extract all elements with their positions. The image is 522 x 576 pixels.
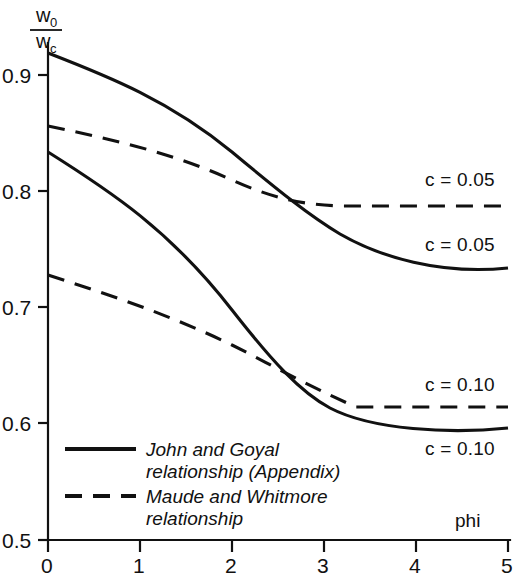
curve-maude-whitmore-c005	[48, 126, 508, 206]
legend-label-john-goyal-line2: relationship (Appendix)	[146, 461, 340, 482]
x-tick-label-3: 3	[317, 554, 329, 576]
chart-svg: w 0 w c 0.9 0.8 0.7 0.6 0.5 0 1 2 3 4 5	[0, 0, 522, 576]
annotation-lower-dashed-c010: c = 0.10	[425, 374, 495, 395]
x-tick-label-5: 5	[501, 554, 513, 576]
y-axis-numerator: w	[35, 4, 51, 26]
y-tick-label-0.5: 0.5	[2, 529, 31, 552]
y-tick-label-0.8: 0.8	[2, 180, 31, 203]
chart-legend: John and Goyal relationship (Appendix) M…	[65, 439, 340, 529]
x-axis-label: phi	[455, 510, 480, 531]
y-tick-label-0.9: 0.9	[2, 64, 31, 87]
legend-label-maude-whitmore-line2: relationship	[146, 508, 243, 529]
legend-label-maude-whitmore-line1: Maude and Whitmore	[146, 486, 328, 507]
y-tick-label-0.6: 0.6	[2, 412, 31, 435]
y-axis-tick-labels: 0.9 0.8 0.7 0.6 0.5	[2, 64, 31, 552]
x-tick-label-0: 0	[41, 554, 53, 576]
legend-label-john-goyal-line1: John and Goyal	[145, 439, 280, 460]
annotation-upper-dashed-c005: c = 0.05	[425, 169, 495, 190]
x-tick-label-2: 2	[225, 554, 237, 576]
chart-figure: w 0 w c 0.9 0.8 0.7 0.6 0.5 0 1 2 3 4 5	[0, 0, 522, 576]
x-axis-ticks	[48, 540, 508, 552]
y-tick-label-0.7: 0.7	[2, 296, 31, 319]
annotation-upper-solid-c005: c = 0.05	[425, 234, 495, 255]
x-tick-label-4: 4	[409, 554, 421, 576]
y-axis-ticks	[38, 75, 48, 540]
annotation-lower-solid-c010: c = 0.10	[425, 438, 495, 459]
legend-item-maude-whitmore: Maude and Whitmore relationship	[65, 486, 328, 529]
y-axis-label: w 0 w c	[30, 4, 62, 56]
x-tick-label-1: 1	[133, 554, 145, 576]
x-axis-tick-labels: 0 1 2 3 4 5	[41, 554, 513, 576]
legend-item-john-goyal: John and Goyal relationship (Appendix)	[65, 439, 340, 482]
y-axis-numerator-subscript: 0	[50, 15, 57, 30]
